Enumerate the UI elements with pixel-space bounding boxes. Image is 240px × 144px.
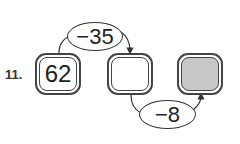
intermediate-answer-box[interactable] bbox=[107, 53, 153, 95]
final-answer-box[interactable] bbox=[177, 53, 223, 95]
operation-1: −35 bbox=[76, 24, 113, 50]
start-value: 62 bbox=[45, 60, 72, 88]
operation-oval-1: −35 bbox=[67, 22, 123, 51]
operation-oval-2: −8 bbox=[139, 100, 196, 129]
start-value-box: 62 bbox=[35, 53, 81, 95]
problem-number: 11. bbox=[5, 67, 22, 82]
operation-2: −8 bbox=[155, 102, 180, 128]
